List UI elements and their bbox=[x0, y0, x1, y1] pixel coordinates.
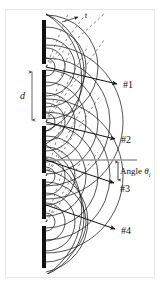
diffraction-diagram-canvas bbox=[0, 0, 160, 286]
barrier-bar-4 bbox=[42, 179, 46, 219]
diffraction-figure: t d #1 #2 Angle θi #3 #4 bbox=[0, 0, 160, 286]
beam-1-label: #1 bbox=[123, 80, 133, 90]
barrier bbox=[42, 20, 46, 268]
beam-2-label: #2 bbox=[121, 135, 131, 145]
slit-spacing-label: d bbox=[20, 91, 25, 101]
top-marker-label: t bbox=[85, 12, 87, 20]
barrier-bar-5 bbox=[42, 226, 46, 268]
angle-label: Angle θi bbox=[120, 167, 150, 178]
angle-label-text: Angle bbox=[120, 166, 142, 176]
barrier-bar-3 bbox=[42, 126, 46, 173]
angle-theta-subscript: i bbox=[149, 172, 151, 178]
barrier-bar-2 bbox=[42, 70, 46, 119]
beam-3-label: #3 bbox=[120, 184, 130, 194]
beam-4-label: #4 bbox=[121, 226, 131, 236]
barrier-bar-1 bbox=[42, 20, 46, 64]
